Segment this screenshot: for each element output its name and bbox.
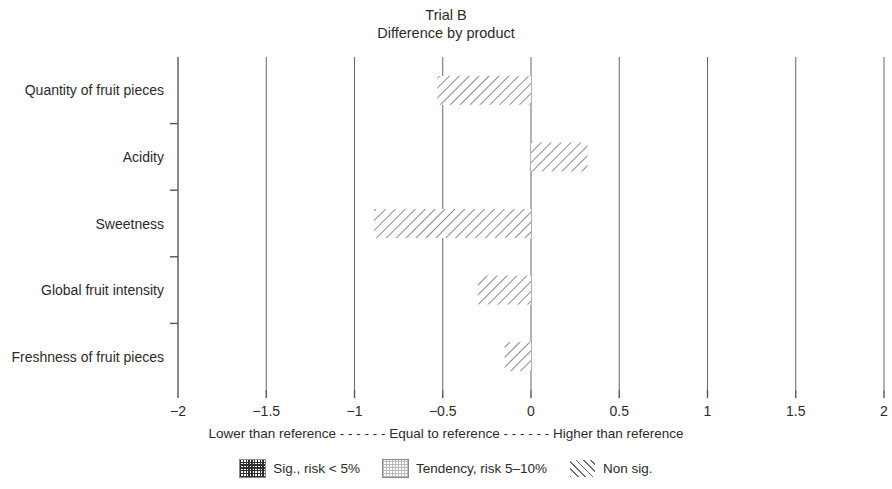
y-axis-ticks <box>170 124 178 324</box>
caption-dashes-right: - - - - - - <box>503 426 549 441</box>
legend-entry: Tendency, risk 5–10% <box>382 459 547 478</box>
bar <box>531 142 587 171</box>
bar <box>505 342 531 371</box>
x-axis-tick-label: −2 <box>170 403 186 419</box>
x-gridlines <box>266 57 884 390</box>
legend-label: Tendency, risk 5–10% <box>416 461 547 476</box>
x-axis-tick-label: −1 <box>347 403 363 419</box>
chart-legend: Sig., risk < 5%Tendency, risk 5–10%Non s… <box>0 459 892 478</box>
x-axis-ticks <box>178 390 884 398</box>
legend-label: Sig., risk < 5% <box>273 461 360 476</box>
y-axis-category-label: Global fruit intensity <box>41 282 164 298</box>
x-axis-tick-label: 1.5 <box>786 403 806 419</box>
y-axis-labels: Quantity of fruit piecesAciditySweetness… <box>11 82 164 364</box>
y-axis-category-label: Freshness of fruit pieces <box>11 349 164 365</box>
y-axis-category-label: Sweetness <box>96 216 164 232</box>
caption-equal: Equal to reference <box>389 426 499 441</box>
bar <box>437 76 531 105</box>
x-axis-tick-labels: −2−1.5−1−0.500.511.52 <box>170 403 888 419</box>
legend-swatch-light-dots <box>382 459 409 478</box>
caption-lower: Lower than reference <box>208 426 336 441</box>
legend-swatch-dense-dark-dots <box>239 459 266 478</box>
x-axis-tick-label: 0.5 <box>610 403 630 419</box>
bar <box>478 276 531 305</box>
y-axis-category-label: Acidity <box>123 149 164 165</box>
bar-series <box>374 76 588 371</box>
bar <box>374 209 531 238</box>
x-axis-tick-label: 1 <box>704 403 712 419</box>
x-axis-tick-label: 2 <box>880 403 888 419</box>
legend-swatch-diagonal-hatch <box>569 459 596 478</box>
legend-entry: Non sig. <box>569 459 653 478</box>
legend-label: Non sig. <box>603 461 653 476</box>
x-axis-tick-label: −1.5 <box>252 403 280 419</box>
plot-area: Quantity of fruit piecesAciditySweetness… <box>0 0 892 420</box>
legend-entry: Sig., risk < 5% <box>239 459 360 478</box>
caption-higher: Higher than reference <box>553 426 684 441</box>
x-axis-tick-label: 0 <box>527 403 535 419</box>
caption-dashes-left: - - - - - - <box>340 426 386 441</box>
x-axis-tick-label: −0.5 <box>429 403 457 419</box>
y-axis-category-label: Quantity of fruit pieces <box>25 82 164 98</box>
axis-caption: Lower than reference - - - - - - Equal t… <box>0 426 892 441</box>
chart-container: Trial B Difference by product Quantity o… <box>0 0 892 489</box>
